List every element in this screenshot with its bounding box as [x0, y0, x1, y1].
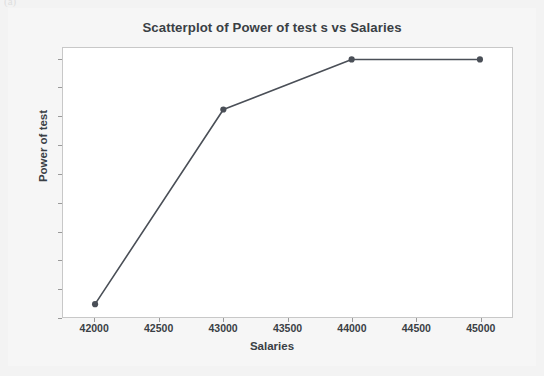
scan-artifact-text: (a): [4, 0, 30, 7]
page-background: (a) Scatterplot of Power of test s vs Sa…: [0, 0, 544, 376]
data-point: [477, 56, 483, 62]
data-point: [349, 56, 355, 62]
plot-canvas: [63, 48, 512, 317]
series-line: [95, 59, 480, 304]
plot-area: [62, 47, 513, 318]
data-point: [220, 106, 226, 112]
data-point: [92, 301, 98, 307]
chart-title: Scatterplot of Power of test s vs Salari…: [0, 20, 544, 35]
